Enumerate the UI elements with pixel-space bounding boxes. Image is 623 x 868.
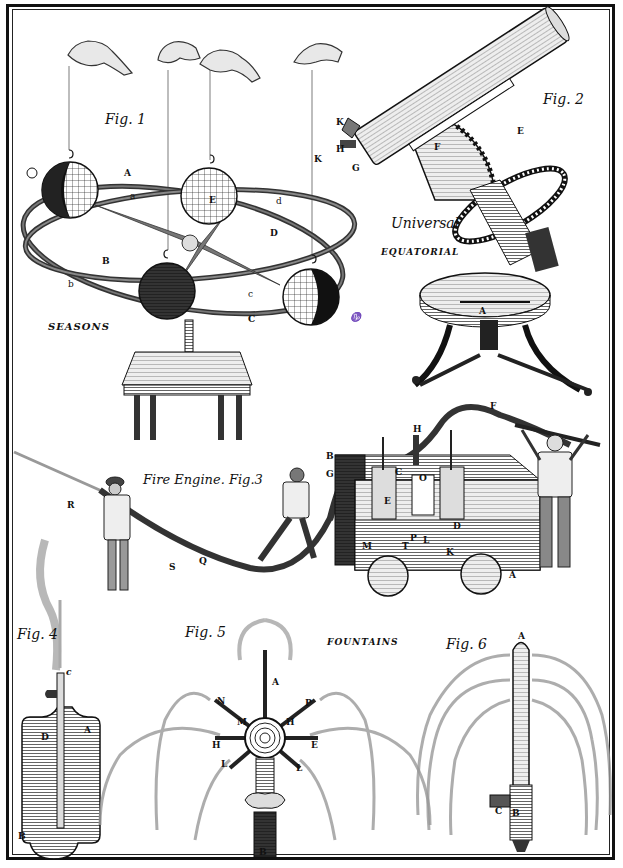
- fig3-label: R: [67, 501, 74, 510]
- fig2-label: G: [352, 164, 360, 173]
- fig5-label: B: [259, 848, 267, 857]
- fig5-label: E: [311, 741, 318, 750]
- fig1-caption: SEASONS: [48, 322, 110, 332]
- fig6-weeping-fountain: [418, 643, 611, 853]
- fig1-label: a: [130, 192, 135, 201]
- fig2-caption-line1: Universal: [391, 216, 459, 230]
- fig3-label: K: [446, 548, 454, 557]
- fig1-orrery: ♑: [13, 41, 363, 440]
- fig5-label: L: [296, 764, 302, 773]
- fig4-label: D: [41, 733, 49, 742]
- hand-icon: [68, 41, 342, 82]
- fig5-label: A: [272, 678, 279, 687]
- fig4-title: Fig. 4: [17, 627, 58, 641]
- capricorn-sign-icon: ♑: [350, 311, 363, 322]
- fig3-label: Q: [199, 557, 207, 566]
- fig3-label: G: [326, 470, 334, 479]
- fig5-label: P: [305, 699, 312, 708]
- fig3-label: O: [419, 474, 427, 483]
- fig3-label: S: [169, 563, 176, 572]
- fig3-label: P: [410, 534, 417, 543]
- fig1-label: D: [270, 229, 278, 238]
- fig3-label: D: [453, 522, 461, 531]
- fig1-label: K: [314, 155, 322, 164]
- fig2-caption-line2: EQUATORIAL: [381, 248, 459, 257]
- fig3-label: F: [490, 402, 496, 411]
- fig2-label: F: [434, 143, 440, 152]
- fig6-title: Fig. 6: [446, 637, 487, 651]
- fig2-title: Fig. 2: [543, 92, 584, 106]
- fig5-multi-jet-fountain: [100, 620, 430, 857]
- fig6-label: C: [495, 807, 502, 816]
- fig1-label: E: [209, 196, 216, 205]
- fig5-caption: FOUNTAINS: [327, 638, 398, 647]
- fig4-label: B: [18, 832, 26, 841]
- fig1-label: B: [102, 257, 110, 266]
- fig2-label: H: [336, 145, 345, 154]
- fig1-label: A: [124, 169, 131, 178]
- fig4-label: c: [66, 668, 71, 677]
- fig1-label: C: [248, 315, 255, 324]
- fig1-label: c: [248, 290, 253, 299]
- fig3-fire-engine: [14, 407, 600, 596]
- fig3-label: H: [413, 425, 422, 434]
- fig3-title: Fire Engine. Fig.3: [143, 473, 263, 486]
- fig1-label: d: [276, 197, 282, 206]
- fig6-label: A: [518, 632, 525, 641]
- fig6-label: B: [512, 809, 520, 818]
- runner-figure: [260, 468, 314, 560]
- fig5-label: H: [212, 741, 221, 750]
- fig3-label: E: [384, 497, 391, 506]
- cancer-sign-icon: [27, 168, 37, 178]
- fig4-fountain-vessel: [22, 540, 100, 859]
- fig3-label: M: [362, 542, 372, 551]
- fig1-title: Fig. 1: [105, 112, 146, 126]
- fig3-label: A: [509, 571, 516, 580]
- fig3-label: C: [395, 468, 402, 477]
- fig3-label: L: [423, 536, 429, 545]
- fig2-label: E: [517, 127, 524, 136]
- fig5-label: L: [221, 760, 227, 769]
- fig2-label: A: [479, 307, 486, 316]
- fig5-label: N: [217, 697, 225, 706]
- fig2-equatorial-telescope: [340, 4, 592, 396]
- fig3-label: T: [402, 542, 409, 551]
- fig2-label: K: [336, 118, 344, 127]
- fig1-label: b: [68, 280, 74, 289]
- fig4-label: A: [84, 726, 91, 735]
- fig5-title: Fig. 5: [185, 625, 226, 639]
- fig5-label: H: [286, 718, 295, 727]
- fig5-label: M: [237, 718, 247, 727]
- engraving-artwork: ♑: [0, 0, 623, 868]
- fig3-label: B: [326, 452, 334, 461]
